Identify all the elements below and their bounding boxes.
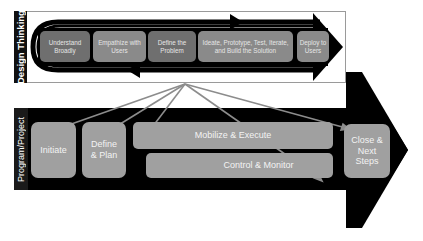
dt-step-define: Define the Problem [148, 31, 196, 62]
phase-control-monitor: Control & Monitor [146, 153, 333, 178]
program-project-label: Program/Project [14, 108, 28, 190]
dt-step-deploy: Deploy to Users [297, 31, 329, 62]
dt-step-empathize: Empathize with Users [93, 31, 146, 62]
phase-initiate: Initiate [31, 122, 76, 178]
phase-define-plan: Define & Plan [82, 122, 126, 178]
phase-mobilize-execute: Mobilize & Execute [133, 122, 333, 149]
design-thinking-label: Design Thinking [14, 11, 27, 83]
phase-close-next-steps: Close & Next Steps [344, 124, 390, 178]
dt-step-understand: Understand Broadly [40, 31, 90, 62]
dt-step-ideate: Ideate, Prototype, Test, Iterate, and Bu… [198, 31, 293, 62]
